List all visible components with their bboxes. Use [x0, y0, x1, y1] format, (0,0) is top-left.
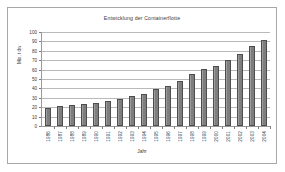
y-tick-label: 20 [32, 105, 37, 110]
y-tick-mark [39, 51, 41, 52]
x-tick-label: 1991 [106, 131, 111, 142]
x-tick-mark [54, 126, 55, 129]
y-tick-mark [39, 41, 41, 42]
x-axis-title: Jahr [8, 149, 276, 154]
bar [129, 96, 136, 126]
bar [153, 89, 160, 126]
bar [201, 69, 208, 126]
chart-frame: Entwicklung der Containerflotte Mio. t d… [7, 7, 277, 164]
bar [237, 54, 244, 126]
bar [249, 46, 256, 126]
y-axis-title: Mio. t dw [17, 46, 22, 64]
y-tick-label: 10 [32, 114, 37, 119]
x-tick-label: 1986 [46, 131, 51, 142]
y-tick-mark [39, 79, 41, 80]
bar [225, 60, 232, 126]
y-tick-label: 100 [29, 30, 37, 35]
y-tick-mark [39, 60, 41, 61]
x-axis-ticks: 1986198719881989199019911992199319941995… [42, 126, 270, 129]
x-tick-label: 1988 [70, 131, 75, 142]
bar [261, 40, 268, 126]
x-tick-mark [174, 126, 175, 129]
x-tick-mark [138, 126, 139, 129]
x-tick-mark [102, 126, 103, 129]
bar [213, 66, 220, 126]
bar [117, 99, 124, 126]
y-tick-label: 90 [32, 39, 37, 44]
y-tick-label: 60 [32, 67, 37, 72]
bar [165, 86, 172, 126]
x-tick-mark [258, 126, 259, 129]
x-tick-mark [66, 126, 67, 129]
x-tick-label: 1987 [58, 131, 63, 142]
y-tick-mark [39, 117, 41, 118]
x-tick-mark [198, 126, 199, 129]
bar [189, 74, 196, 126]
x-tick-mark [222, 126, 223, 129]
x-tick-label: 2002 [238, 131, 243, 142]
y-tick-label: 50 [32, 77, 37, 82]
x-tick-label: 2004 [262, 131, 267, 142]
x-tick-label: 2001 [226, 131, 231, 142]
y-tick-mark [39, 88, 41, 89]
x-tick-label: 1995 [154, 131, 159, 142]
x-tick-label: 1999 [202, 131, 207, 142]
x-tick-mark [234, 126, 235, 129]
x-tick-mark [186, 126, 187, 129]
y-tick-mark [39, 98, 41, 99]
x-tick-label: 2003 [250, 131, 255, 142]
bar [105, 101, 112, 126]
bar-series [42, 32, 270, 126]
x-tick-label: 1994 [142, 131, 147, 142]
x-tick-label: 1993 [130, 131, 135, 142]
bar [45, 108, 52, 126]
x-tick-mark [126, 126, 127, 129]
x-tick-label: 1998 [190, 131, 195, 142]
bar [93, 103, 100, 127]
x-tick-mark [114, 126, 115, 129]
x-tick-mark [246, 126, 247, 129]
bar [141, 94, 148, 126]
x-tick-label: 1996 [166, 131, 171, 142]
x-tick-mark [78, 126, 79, 129]
chart-title: Entwicklung der Containerflotte [8, 15, 276, 21]
y-tick-mark [39, 70, 41, 71]
y-tick-label: 40 [32, 86, 37, 91]
bar [81, 104, 88, 126]
y-tick-mark [39, 32, 41, 33]
y-tick-label: 0 [34, 124, 37, 129]
x-tick-label: 2000 [214, 131, 219, 142]
x-tick-label: 1997 [178, 131, 183, 142]
x-tick-label: 1989 [82, 131, 87, 142]
plot-area: 0102030405060708090100 19861987198819891… [41, 32, 270, 127]
x-tick-mark [90, 126, 91, 129]
x-tick-label: 1990 [94, 131, 99, 142]
bar [69, 105, 76, 126]
y-tick-label: 80 [32, 48, 37, 53]
bar [57, 106, 64, 126]
x-tick-mark [210, 126, 211, 129]
y-tick-label: 30 [32, 95, 37, 100]
bar [177, 81, 184, 126]
x-tick-mark [162, 126, 163, 129]
y-tick-label: 70 [32, 58, 37, 63]
y-tick-mark [39, 107, 41, 108]
x-tick-mark [270, 126, 271, 129]
x-tick-label: 1992 [118, 131, 123, 142]
y-tick-mark [39, 126, 41, 127]
x-tick-mark [150, 126, 151, 129]
